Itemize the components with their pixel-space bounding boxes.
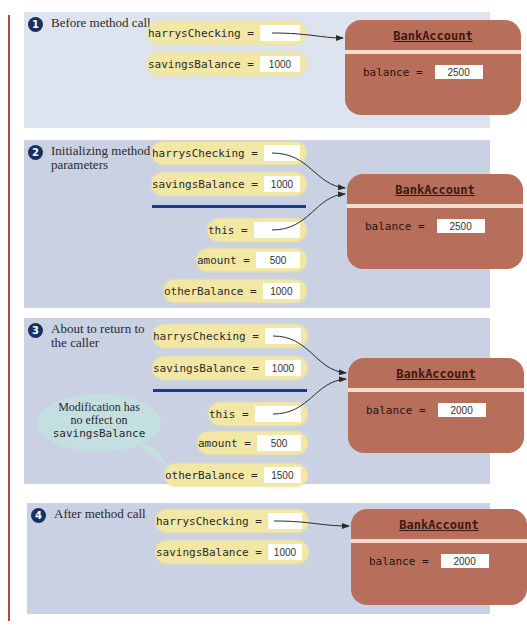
arrow-harrysChecking-2 [272, 153, 345, 188]
arrow-harrysChecking-1 [272, 33, 343, 38]
arrow-harrysChecking-3 [273, 336, 346, 373]
arrow-this-2 [272, 194, 345, 230]
arrow-this-3 [273, 379, 346, 414]
arrow-harrysChecking-4 [274, 521, 349, 526]
